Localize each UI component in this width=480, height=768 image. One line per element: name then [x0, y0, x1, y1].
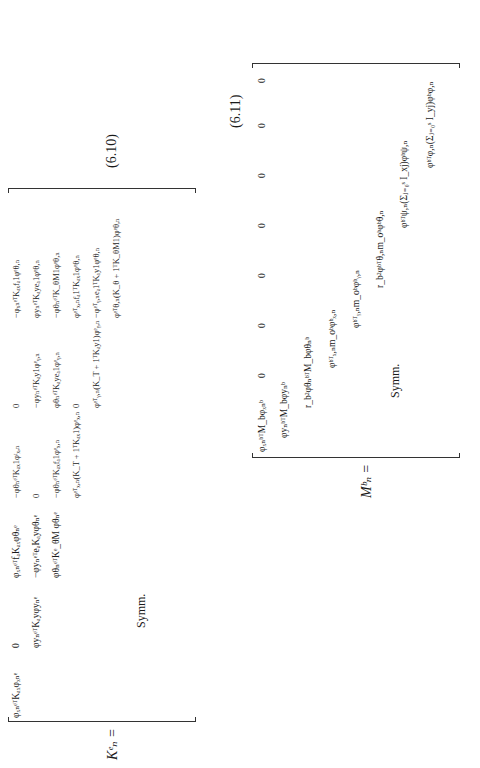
matrix-cell: φᵇᵀφ,ₙ(Σⱼ₌₀ˢ I_yj)φᵇφ,ₙ [426, 81, 436, 168]
equation-6-11: Mᵇₙ = φₓₙᵇᵀM_bφₓₙᵇ φyₙᵇᵀM_bφyₙᵇ r_b²φθₙᵇ… [248, 0, 468, 768]
matrix-cell: −φᵉᵀᵧ,ₙeₐ1ᵀKₐy1φᵉθ,ₙ [92, 248, 101, 318]
matrix-cell: φθₙᵉᵀKᵉ_θM φθₙᵉ [52, 512, 62, 578]
left-bracket [8, 717, 196, 722]
lhs-label: Mᵇₙ = [358, 464, 375, 498]
rotated-page: Kᵉₙ = φₓₙᵉᵀKₐₓφₓₙᵉ 0 φyₙᵉᵀKₐyφyₙᵉ φₓₙᵉᵀf… [0, 0, 480, 768]
matrix-cell: r_b²φθₙᵇᵀM_bφθₙᵇ [304, 337, 314, 408]
matrix-cell: φyₙᵇᵀM_bφyₙᵇ [280, 382, 290, 438]
matrix-cell: φyₙᵉᵀKₐyeₐ1φᵉθ,ₙ [32, 260, 41, 318]
matrix-cell: −φₓₙᵉᵀKₐₓfₐ1φᵉθ,ₙ [12, 260, 21, 318]
matrix-cell: 0 [12, 643, 22, 648]
matrix-cell: −φyₙᵉᵀKₐy1φᵉᵧ,ₙ [32, 353, 41, 408]
matrix-cell: φyₙᵉᵀKₐyφyₙᵉ [32, 597, 42, 648]
matrix-cell: φₓₙᵇᵀM_bφₓₙᵇ [258, 400, 268, 452]
matrix-cell: −φθₙᵉᵀK_θM1φᵉθ,ₙ [52, 252, 61, 318]
matrix-cell: −φyₙᵉᵀeₐKₐyφθₙᵉ [32, 515, 42, 578]
equation-number: (6.11) [228, 95, 244, 128]
matrix-cell: φₓₙᵉᵀKₐₓφₓₙᵉ [12, 673, 22, 718]
right-bracket [8, 188, 196, 193]
matrix-cell: 0 [258, 323, 268, 328]
matrix-cell: 0 [258, 173, 268, 178]
matrix-cell: 0 [72, 404, 81, 408]
symmetric-label: Symm. [388, 364, 403, 398]
matrix-cell: 0 [258, 78, 268, 83]
matrix-cell: 0 [258, 123, 268, 128]
equation-number: (6.10) [104, 134, 120, 168]
matrix-cell: 0 [258, 273, 268, 278]
matrix-cell: φᵉᵀθ,ₙ(K_θ + 1ᵀK_θM1)φᵉθ,ₙ [112, 218, 121, 318]
right-bracket [252, 63, 460, 68]
left-bracket [252, 453, 460, 458]
lhs-label: Kᵉₙ = [104, 728, 121, 760]
matrix-cell: φᵉᵀᵧ,ₙ(K_T + 1ᵀKₐy1)φᵉᵧ,ₙ [92, 320, 101, 408]
matrix-cell: φᵉᵀₓ,ₙfₐ1ᵀKₐₓ1φᵉθ,ₙ [72, 255, 81, 318]
symmetric-label: Symm. [134, 594, 149, 628]
matrix-cell: r_b²φᵇᵀθ,ₙm_oᵇφᵇθ,ₙ [376, 210, 386, 288]
matrix-cell: 0 [12, 404, 21, 408]
matrix-cell: 0 [258, 223, 268, 228]
matrix-cell: φθₙᵉᵀKₐyeₐ1φᵉᵧ,ₙ [52, 352, 61, 408]
matrix-cell: φᵇᵀψ,ₙ(Σⱼ₌₀ˢ I_xj)φᵇψ,ₙ [400, 140, 410, 228]
matrix-cell: −φθₙᵉᵀKₐₓ1φᵗₓ,ₙ [12, 445, 21, 498]
matrix-cell: 0 [258, 373, 268, 378]
matrix-cell: φₓₙᵉᵀfₐKₐₓφθₙᵉ [12, 525, 22, 578]
matrix-cell: φᵇᵀᵧ,ₙm_oᵇφᵇᵧ,ₙ [352, 270, 362, 328]
matrix-cell: φᵇᵀₓ,ₙm_oᵇφᵇₓ,ₙ [328, 309, 338, 368]
matrix-cell: φᵉᵀₓ,ₙ(K_T + 1ᵀKₐₓ1)φᵉₓ,ₙ [72, 412, 81, 498]
matrix-cell: −φθₙᵉᵀKₐₓfₐ1φᵉₓ,ₙ [52, 440, 61, 498]
equation-6-10: Kᵉₙ = φₓₙᵉᵀKₐₓφₓₙᵉ 0 φyₙᵉᵀKₐyφyₙᵉ φₓₙᵉᵀf… [4, 0, 204, 768]
matrix-cell: 0 [32, 494, 41, 498]
